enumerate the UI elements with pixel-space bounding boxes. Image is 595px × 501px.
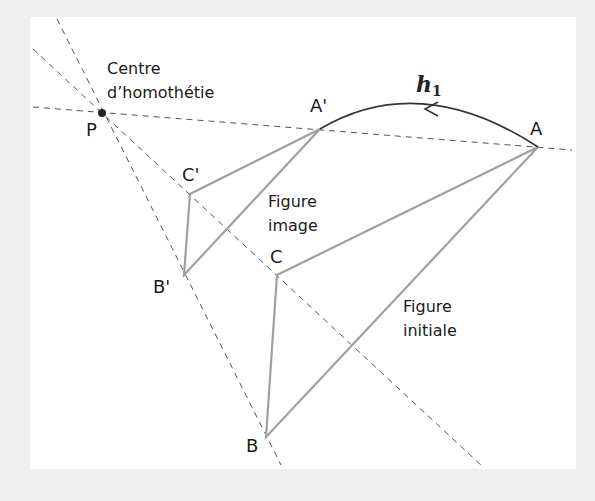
transform-label-subscript: 1 [432, 83, 442, 99]
centre-label-line1: Centre [107, 57, 214, 81]
point-label-c-prime: C' [182, 166, 200, 184]
dashed-line-pa [33, 107, 572, 150]
image-figure-label-line2: image [268, 214, 318, 238]
centre-point-dot [98, 109, 106, 117]
centre-label-line2: d’homothétie [107, 81, 214, 105]
point-label-p: P [86, 121, 97, 139]
homothety-diagram [0, 0, 595, 501]
transform-label-letter: h [416, 71, 432, 97]
centre-label: Centre d’homothétie [107, 57, 214, 105]
transform-label: h1 [416, 73, 442, 98]
point-label-a: A [530, 120, 542, 138]
point-label-a-prime: A' [310, 97, 327, 115]
point-label-c: C [270, 248, 283, 266]
image-figure-label-line1: Figure [268, 190, 318, 214]
point-label-b-prime: B' [153, 278, 170, 296]
initial-figure-label: Figure initiale [403, 295, 457, 343]
initial-figure-label-line2: initiale [403, 319, 457, 343]
image-figure-label: Figure image [268, 190, 318, 238]
transform-arc [320, 103, 538, 147]
point-label-b: B [246, 437, 258, 455]
initial-figure-label-line1: Figure [403, 295, 457, 319]
